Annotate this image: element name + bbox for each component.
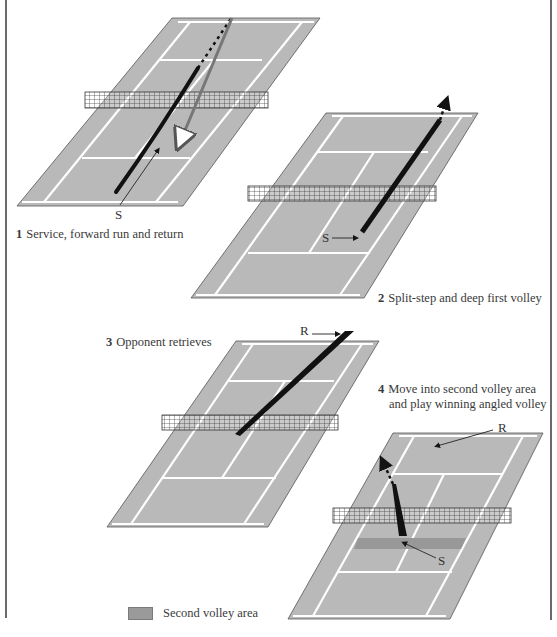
- legend: Second volley area: [128, 606, 258, 621]
- caption-panel-3: 3Opponent retrieves: [106, 335, 212, 350]
- caption-number: 2: [378, 291, 384, 305]
- net: [248, 186, 436, 201]
- legend-label: Second volley area: [163, 606, 258, 621]
- net: [333, 508, 511, 523]
- court-panel-3: [107, 331, 379, 527]
- legend-swatch-second-volley-area: [128, 607, 153, 620]
- caption-text-line-1: Move into second volley area: [388, 382, 536, 396]
- caption-panel-4: 4Move into second volley area and play w…: [378, 382, 547, 412]
- court-panel-4: [288, 430, 543, 619]
- server-label-1: S: [115, 207, 122, 223]
- diagram-canvas: S S R R S 1Service, forward run and retu…: [0, 0, 557, 637]
- court-panel-1: [17, 17, 320, 206]
- caption-text: Opponent retrieves: [116, 335, 211, 349]
- caption-number: 3: [106, 335, 112, 349]
- caption-panel-2: 2Split-step and deep first volley: [378, 291, 542, 306]
- caption-panel-1: 1Service, forward run and return: [16, 227, 183, 242]
- server-label-4: S: [438, 553, 445, 569]
- caption-number: 4: [378, 382, 384, 396]
- caption-text: Service, forward run and return: [26, 227, 183, 241]
- caption-text-line-2: and play winning angled volley: [389, 397, 547, 411]
- second-volley-area: [354, 538, 466, 549]
- receiver-label-3: R: [300, 323, 309, 339]
- courts-svg: [0, 0, 557, 637]
- server-label-2: S: [322, 230, 329, 246]
- receiver-label-4: R: [498, 420, 507, 436]
- caption-text: Split-step and deep first volley: [388, 291, 541, 305]
- caption-number: 1: [16, 227, 22, 241]
